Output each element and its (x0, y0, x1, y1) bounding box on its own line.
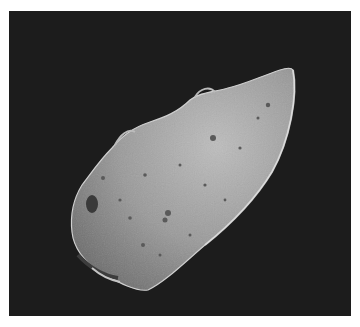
asteroid-photo (9, 11, 351, 316)
asteroid-illustration (9, 11, 351, 316)
